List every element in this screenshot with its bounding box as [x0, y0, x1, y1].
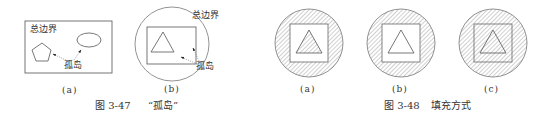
sublabel-3-47-a: (a): [62, 86, 77, 95]
sublabel-3-47-b: (b): [164, 85, 180, 94]
arrow-to-square-inner: [181, 57, 197, 64]
caption-number-3-47: 图 3-47: [95, 101, 131, 111]
ellipse-island: [77, 33, 101, 47]
triangle-island: [151, 32, 174, 52]
sublabel-3-48-b: (b): [392, 85, 408, 94]
pentagon-island: [32, 43, 51, 61]
caption-title-3-48: 填充方式: [431, 101, 471, 111]
sublabel-3-48-a: (a): [300, 85, 315, 94]
fig-3-48-panel-c: [459, 9, 527, 77]
island-label-a: 孤岛: [64, 61, 82, 70]
outer-boundary-label-b: 总边界: [192, 11, 219, 20]
caption-title-3-47: “孤岛”: [148, 101, 178, 111]
outer-boundary-label-a: 总边界: [30, 25, 57, 34]
arrow-to-ellipse: [74, 50, 81, 60]
square-island: [147, 27, 196, 64]
fig-3-48-panel-a: [275, 9, 343, 77]
island-label-b: 孤岛: [196, 62, 214, 71]
hatched-circle: [459, 9, 527, 77]
sublabel-3-48-c: (c): [484, 85, 499, 94]
fig-3-48-panel-b: [367, 9, 435, 77]
caption-number-3-48: 图 3-48: [384, 101, 420, 111]
